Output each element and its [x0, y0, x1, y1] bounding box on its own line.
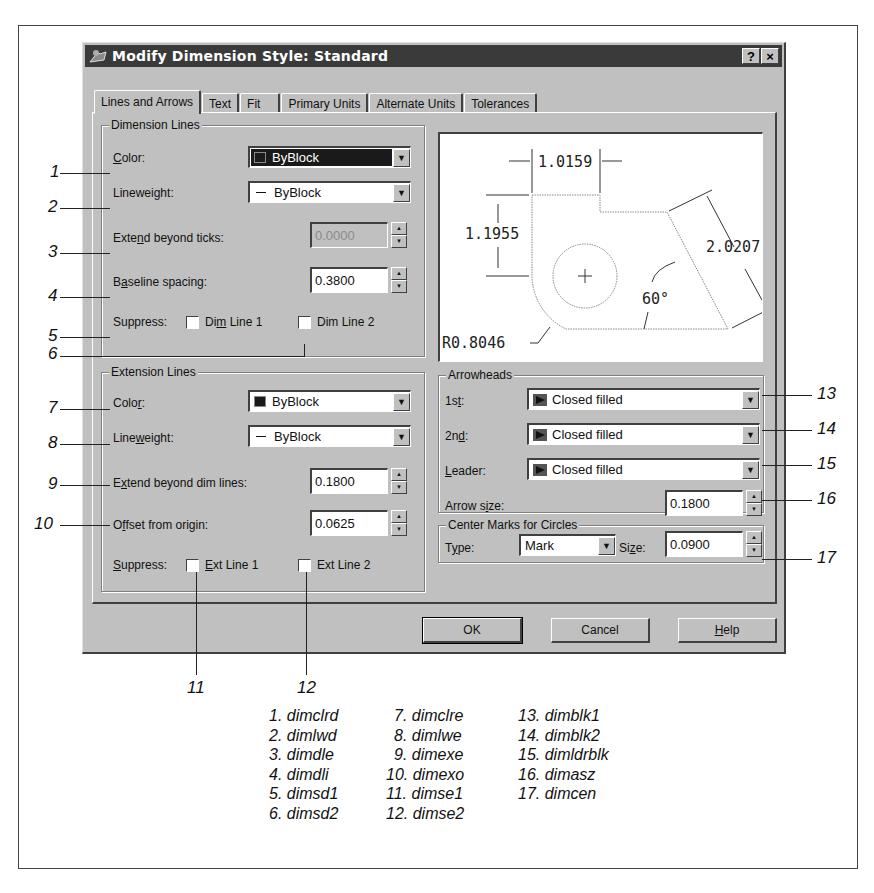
callout-1: 1 [50, 162, 59, 182]
checkbox-box[interactable] [186, 316, 199, 329]
dimension-lines-group: Dimension Lines Color: ByBlock ▼ Linewei… [101, 125, 425, 357]
ok-button[interactable]: OK [423, 618, 522, 643]
dim-lineweight-select[interactable]: ByBlock ▼ [248, 181, 411, 203]
spin-down-icon[interactable]: ▼ [391, 481, 407, 494]
callout-line-7 [60, 409, 110, 410]
extend-beyond-dim-lines-spinner: 0.1800 ▲▼ [310, 468, 407, 494]
dim-color-select[interactable]: ByBlock ▼ [248, 146, 411, 168]
spin-down-icon[interactable]: ▼ [746, 544, 762, 557]
center-mark-size-input[interactable]: 0.0900 [665, 531, 743, 557]
center-marks-group: Center Marks for Circles Type: Mark ▼ Si… [438, 525, 764, 563]
baseline-spacing-spinner: 0.3800 ▲▼ [310, 267, 407, 293]
tab-fit[interactable]: Fit [240, 93, 280, 114]
callout-4: 4 [48, 286, 57, 306]
closed-filled-arrow-icon [533, 464, 547, 476]
callout-17: 17 [817, 548, 836, 568]
arrow-size-label: Arrow size: [445, 498, 504, 514]
dim-line-2-checkbox[interactable]: Dim Line 2 [298, 315, 374, 329]
tab-primary-units[interactable]: Primary Units [281, 93, 368, 114]
callout-line-17 [762, 559, 812, 560]
ext-lineweight-select[interactable]: ByBlock ▼ [248, 425, 411, 447]
baseline-spacing-input[interactable]: 0.3800 [310, 267, 388, 293]
arrow-size-input[interactable]: 0.1800 [665, 490, 743, 516]
ext-suppress-label: Suppress: [113, 557, 167, 573]
lineweight-icon [256, 436, 266, 438]
callout-line-11 [196, 572, 197, 675]
spin-up-icon[interactable]: ▲ [746, 531, 762, 544]
checkbox-box[interactable] [298, 316, 311, 329]
center-mark-type-select[interactable]: Mark ▼ [519, 534, 616, 556]
cancel-button[interactable]: Cancel [551, 618, 650, 643]
chevron-down-icon[interactable]: ▼ [742, 461, 759, 479]
callout-line-16 [762, 500, 812, 501]
callout-line-14 [762, 430, 812, 431]
tab-strip: Lines and Arrows Text Fit Primary Units … [94, 90, 538, 114]
dimension-lines-title: Dimension Lines [109, 117, 202, 133]
legend-column-1: 1. dimclrd 2. dimlwd 3. dimdle 4. dimdli… [269, 706, 338, 823]
help-button[interactable]: Help [678, 618, 777, 643]
callout-line-2 [60, 208, 110, 209]
tab-text[interactable]: Text [202, 93, 239, 114]
lines-and-arrows-panel: Dimension Lines Color: ByBlock ▼ Linewei… [92, 112, 777, 604]
chevron-down-icon[interactable]: ▼ [393, 428, 410, 446]
callout-13: 13 [817, 384, 836, 404]
ext-color-select[interactable]: ByBlock ▼ [248, 390, 411, 412]
tab-lines-and-arrows[interactable]: Lines and Arrows [94, 90, 201, 114]
leader-arrowhead-select[interactable]: Closed filled ▼ [527, 458, 760, 480]
extension-lines-title: Extension Lines [109, 364, 198, 380]
chevron-down-icon[interactable]: ▼ [598, 537, 615, 555]
callout-3: 3 [48, 242, 57, 262]
callout-12: 12 [297, 678, 316, 698]
baseline-spacing-label: Baseline spacing: [113, 274, 207, 290]
chevron-down-icon[interactable]: ▼ [742, 391, 759, 409]
radius-text: R0.8046 [442, 334, 505, 352]
spin-up-icon: ▲ [391, 222, 407, 235]
center-mark-size-spinner: 0.0900 ▲▼ [665, 531, 762, 557]
modify-dimension-style-dialog: Modify Dimension Style: Standard ? × Lin… [82, 42, 786, 654]
ext-line-2-checkbox[interactable]: Ext Line 2 [298, 558, 370, 572]
tab-tolerances[interactable]: Tolerances [464, 93, 537, 114]
leader-arrowhead-label: Leader: [445, 463, 486, 479]
callout-14: 14 [817, 419, 836, 439]
callout-line-3 [60, 253, 110, 254]
chevron-down-icon[interactable]: ▼ [742, 426, 759, 444]
dim-suppress-label: Suppress: [113, 314, 167, 330]
offset-from-origin-label: Offset from origin: [113, 517, 208, 533]
extend-beyond-dim-lines-input[interactable]: 0.1800 [310, 468, 388, 494]
first-arrowhead-label: 1st: [445, 393, 464, 409]
tab-alternate-units[interactable]: Alternate Units [369, 93, 463, 114]
help-title-button[interactable]: ? [742, 48, 760, 64]
closed-filled-arrow-icon [533, 429, 547, 441]
center-mark-size-label: Size: [619, 540, 646, 556]
offset-from-origin-input[interactable]: 0.0625 [310, 510, 388, 536]
arrow-size-spinner: 0.1800 ▲▼ [665, 490, 762, 516]
close-button[interactable]: × [761, 48, 779, 64]
first-arrowhead-select[interactable]: Closed filled ▼ [527, 388, 760, 410]
title-bar[interactable]: Modify Dimension Style: Standard ? × [85, 45, 782, 67]
callout-15: 15 [817, 454, 836, 474]
second-arrowhead-label: 2nd: [445, 428, 468, 444]
callout-16: 16 [817, 489, 836, 509]
legend-column-2: 7. dimclre 8. dimlwe 9. dimexe 10. dimex… [386, 706, 464, 823]
checkbox-box[interactable] [298, 559, 311, 572]
spin-down-icon[interactable]: ▼ [746, 503, 762, 516]
spin-up-icon[interactable]: ▲ [391, 510, 407, 523]
spin-down-icon[interactable]: ▼ [391, 280, 407, 293]
spin-up-icon[interactable]: ▲ [391, 468, 407, 481]
checkbox-box[interactable] [186, 559, 199, 572]
callout-2: 2 [48, 197, 57, 217]
chevron-down-icon[interactable]: ▼ [393, 149, 410, 167]
dim-line-1-checkbox[interactable]: Dim Line 1 [186, 315, 262, 329]
second-arrowhead-select[interactable]: Closed filled ▼ [527, 423, 760, 445]
offset-from-origin-spinner: 0.0625 ▲▼ [310, 510, 407, 536]
spin-up-icon[interactable]: ▲ [391, 267, 407, 280]
callout-line-10 [60, 525, 110, 526]
chevron-down-icon[interactable]: ▼ [393, 393, 410, 411]
extension-lines-group: Extension Lines Color: ByBlock ▼ Linewei… [101, 372, 425, 592]
spin-down-icon[interactable]: ▼ [391, 523, 407, 536]
ext-line-1-checkbox[interactable]: Ext Line 1 [186, 558, 258, 572]
spin-up-icon[interactable]: ▲ [746, 490, 762, 503]
chevron-down-icon[interactable]: ▼ [393, 184, 410, 202]
dimension-preview: 1.0159 1.1955 2.0207 60° R0.8046 [438, 132, 763, 362]
callout-line-15 [762, 465, 812, 466]
